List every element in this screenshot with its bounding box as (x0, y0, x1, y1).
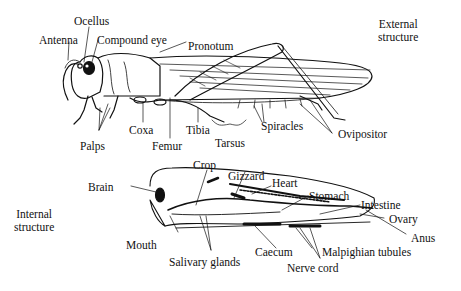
label-malpighian-tubules: Malpighian tubules (322, 246, 411, 258)
label-ovipositor: Ovipositor (338, 128, 387, 140)
label-palps: Palps (80, 140, 105, 152)
label-compound-eye: Compound eye (97, 34, 167, 46)
internal-organs-drawing (131, 167, 406, 258)
label-caecum: Caecum (255, 246, 293, 258)
label-anus: Anus (411, 232, 435, 244)
label-salivary-glands: Salivary glands (169, 256, 240, 268)
label-ovary: Ovary (389, 213, 418, 225)
label-spiracles: Spiracles (261, 120, 303, 132)
label-mouth: Mouth (126, 239, 157, 251)
label-intestine: Intestine (361, 199, 401, 211)
label-coxa: Coxa (129, 124, 153, 136)
label-crop: Crop (193, 159, 216, 171)
label-antenna: Antenna (39, 34, 78, 46)
label-femur: Femur (152, 140, 182, 152)
label-stomach: Stomach (309, 190, 349, 202)
label-ocellus: Ocellus (74, 15, 109, 27)
label-nerve-cord: Nerve cord (287, 262, 338, 274)
internal-structure-title: Internal structure (14, 208, 54, 234)
label-heart: Heart (272, 177, 298, 189)
label-tibia: Tibia (186, 124, 210, 136)
label-gizzard: Gizzard (228, 170, 264, 182)
label-pronotum: Pronotum (188, 40, 233, 52)
label-brain: Brain (88, 181, 114, 193)
label-tarsus: Tarsus (215, 137, 245, 149)
external-structure-title: External structure (378, 18, 418, 44)
